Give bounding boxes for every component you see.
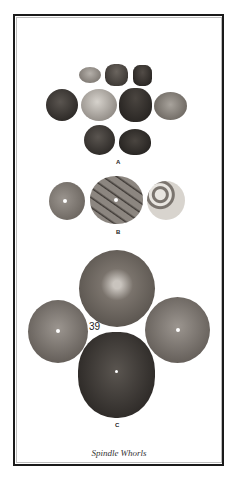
whorl-hole [115, 370, 118, 373]
figure-number: 39 [89, 321, 100, 332]
whorl-hole [176, 328, 180, 332]
whorl-a5 [81, 89, 117, 121]
whorl-c-right [145, 297, 210, 363]
whorl-c-left [28, 300, 88, 363]
whorl-b3 [147, 181, 185, 220]
whorl-a3 [133, 65, 152, 86]
plate-caption: Spindle Whorls [16, 448, 222, 458]
whorl-a4 [46, 89, 78, 121]
whorl-c-top [79, 250, 155, 327]
whorl-a9 [119, 129, 151, 155]
whorl-a8 [84, 125, 115, 155]
group-b-label: B [116, 229, 120, 235]
whorl-c-bottom [78, 332, 155, 418]
whorl-b1 [49, 182, 85, 220]
whorl-a6 [119, 88, 152, 122]
whorl-a1 [79, 67, 101, 83]
whorl-b2 [90, 176, 143, 224]
group-c-label: C [115, 422, 119, 428]
whorl-a7 [154, 92, 187, 120]
whorl-hole [63, 199, 67, 203]
whorl-a2 [105, 64, 128, 86]
whorl-hole [114, 198, 118, 202]
group-a-label: A [116, 159, 120, 165]
whorl-hole [56, 329, 60, 333]
